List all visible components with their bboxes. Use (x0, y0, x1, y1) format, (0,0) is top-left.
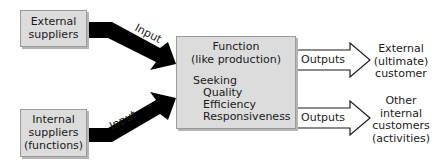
internal-customers-line-3: customers (370, 120, 432, 133)
function-title-2: (like production) (177, 54, 295, 67)
function-box: Function (like production) Seeking Quali… (176, 36, 296, 129)
internal-customers-line-4: (activities) (370, 133, 432, 146)
output-label-bottom: Outputs (300, 112, 346, 125)
internal-suppliers-box: Internal suppliers (functions) (20, 109, 87, 157)
external-customer-label: External (ultimate) customer (370, 43, 432, 81)
output-label-top: Outputs (300, 54, 346, 67)
internal-suppliers-label-2: suppliers (21, 127, 86, 140)
internal-customers-line-1: Other (370, 95, 432, 108)
seeking-item-responsiveness: Responsiveness (203, 111, 291, 124)
internal-suppliers-label-3: (functions) (21, 140, 86, 153)
internal-customers-label: Other internal customers (activities) (370, 95, 432, 145)
external-customer-line-1: External (370, 43, 432, 56)
external-suppliers-label-2: suppliers (21, 29, 86, 42)
external-customer-line-3: customer (370, 68, 432, 81)
input-arrow-external (86, 22, 176, 70)
internal-suppliers-label-1: Internal (21, 114, 86, 127)
external-suppliers-box: External suppliers (20, 10, 87, 47)
function-title-1: Function (177, 41, 295, 54)
external-suppliers-label-1: External (21, 16, 86, 29)
